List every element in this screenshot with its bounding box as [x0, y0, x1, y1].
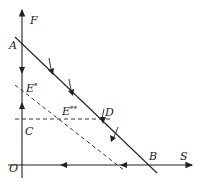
line-ab: [15, 37, 157, 173]
axis-label-f: F: [30, 15, 38, 26]
left-arrow-icon: [120, 162, 127, 168]
origin-label-o: O: [9, 163, 18, 174]
point-label-d: D: [105, 107, 114, 118]
point-label-e-double-star: E**: [62, 106, 77, 117]
e-star-letter: E: [26, 82, 34, 95]
point-label-c: C: [25, 126, 33, 137]
e-double-star-letter: E: [62, 105, 70, 118]
down-arrow-icon: [110, 135, 116, 142]
axis-label-s: S: [180, 151, 188, 162]
down-arrow-icon: [68, 89, 74, 96]
point-label-b: B: [149, 151, 157, 162]
down-arrow-icon: [19, 67, 25, 74]
e-star-mark: *: [34, 82, 38, 90]
point-label-e-star: E*: [26, 83, 38, 94]
point-label-a: A: [9, 40, 17, 51]
tick-mark: [49, 58, 51, 69]
left-arrow-icon: [60, 162, 67, 168]
up-arrow-icon: [19, 102, 25, 109]
e-double-star-mark: **: [70, 105, 77, 113]
